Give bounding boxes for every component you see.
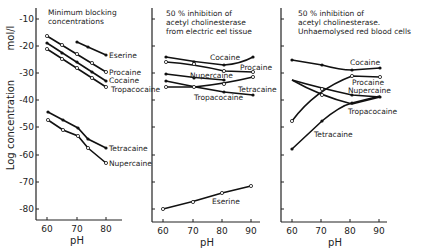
- y-tick: -10: [19, 14, 34, 24]
- x-tick: 60: [157, 226, 169, 236]
- series-label: Tropacocaine: [193, 93, 244, 102]
- y-tick: -70: [19, 177, 34, 187]
- series-label: Tetracaine: [108, 144, 148, 153]
- y-tick: -50: [19, 122, 34, 132]
- series-label: Nupercaine: [190, 71, 233, 80]
- x-tick: 80: [100, 224, 112, 234]
- x-axis-label: pH: [70, 235, 84, 246]
- figure: mol/l Log concentration -10 -20 -30 -40 …: [0, 0, 423, 250]
- x-tick: 80: [216, 226, 228, 236]
- panel-3: 60 70 80 90 pH 50 % inhibition of acetyl…: [281, 8, 411, 248]
- x-axis-label: pH: [200, 237, 214, 248]
- x-tick: 70: [187, 226, 199, 236]
- x-tick: 90: [373, 226, 385, 236]
- series-label: Tropacocaine: [347, 107, 398, 116]
- y-tick: -60: [19, 150, 34, 160]
- x-tick: 70: [315, 226, 327, 236]
- panel-1: -10 -20 -30 -40 -50 -60 -70 -80 60 70 80…: [19, 8, 160, 246]
- panel-title: 50 % inhibition of: [166, 9, 232, 18]
- y-tick: -20: [19, 41, 34, 51]
- series-label: Nupercaine: [348, 86, 391, 95]
- x-axis-label: pH: [328, 237, 342, 248]
- y-tick: -80: [19, 204, 34, 214]
- series-label: Cocaine: [210, 53, 240, 62]
- x-tick: 90: [245, 226, 257, 236]
- panel-title: Minimum blocking: [48, 8, 117, 17]
- x-tick: 80: [344, 226, 356, 236]
- series-label: Eserine: [109, 51, 137, 60]
- series-label: Eserine: [212, 197, 240, 206]
- series-label: Cocaine: [350, 58, 380, 67]
- series-tetracaine: [48, 112, 106, 148]
- series-label: Tropacocaine: [110, 85, 161, 94]
- panel-title: 50 % inhibition of: [298, 9, 364, 18]
- panel-title: from electric eel tissue: [166, 27, 252, 36]
- x-tick: 70: [71, 224, 83, 234]
- x-tick: 60: [286, 226, 298, 236]
- panel-2: 60 70 80 90 pH 50 % inhibition of acetyl…: [152, 8, 277, 248]
- series-tetracaine: [292, 96, 380, 149]
- panel-title: acetyl cholinesterase.: [298, 18, 380, 27]
- panel-title: concentrations: [48, 17, 104, 26]
- series-label: Procaine: [240, 63, 272, 72]
- y-tick: -40: [19, 95, 34, 105]
- series-label: Tetracaine: [313, 130, 353, 139]
- series-eserine: [77, 42, 106, 55]
- series-label: Cocaine: [109, 76, 139, 85]
- panel-title: acetyl cholinesterase: [166, 18, 246, 27]
- y-tick: -30: [19, 68, 34, 78]
- series-label: Nupercaine: [109, 159, 152, 168]
- series-nupercaine: [48, 120, 106, 163]
- y-unit-label: mol/l: [5, 26, 16, 51]
- x-tick: 60: [41, 224, 53, 234]
- panel-title: Unhaemolysed red blood cells: [298, 27, 411, 36]
- y-axis-label: Log concentration: [5, 80, 16, 170]
